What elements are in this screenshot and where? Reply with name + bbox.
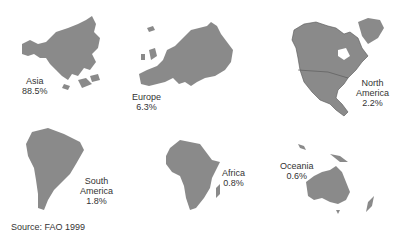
europe-label: Europe 6.3%: [132, 92, 161, 112]
asia-name: Asia: [22, 76, 48, 86]
africa-name: Africa: [222, 168, 245, 178]
oceania-label: Oceania 0.6%: [280, 161, 314, 181]
source-note: Source: FAO 1999: [11, 222, 85, 232]
asia-label: Asia 88.5%: [22, 76, 48, 96]
europe-name: Europe: [132, 92, 161, 102]
north-america-name-line2: America: [356, 88, 389, 98]
south-america-label: South America 1.8%: [80, 176, 113, 206]
oceania-name: Oceania: [280, 161, 314, 171]
south-america-map-icon: [24, 128, 86, 212]
europe-value: 6.3%: [132, 102, 161, 112]
asia-value: 88.5%: [22, 86, 48, 96]
oceania-value: 0.6%: [280, 171, 314, 181]
north-america-value: 2.2%: [356, 98, 389, 108]
south-america-value: 1.8%: [80, 196, 113, 206]
africa-label: Africa 0.8%: [222, 168, 245, 188]
south-america-name-line1: South: [80, 176, 113, 186]
south-america-name-line2: America: [80, 186, 113, 196]
africa-value: 0.8%: [222, 178, 245, 188]
north-america-name-line1: North: [356, 78, 389, 88]
africa-map-icon: [164, 138, 224, 212]
europe-map-icon: [135, 20, 235, 96]
oceania-map-icon: [296, 142, 396, 222]
north-america-label: North America 2.2%: [356, 78, 389, 108]
